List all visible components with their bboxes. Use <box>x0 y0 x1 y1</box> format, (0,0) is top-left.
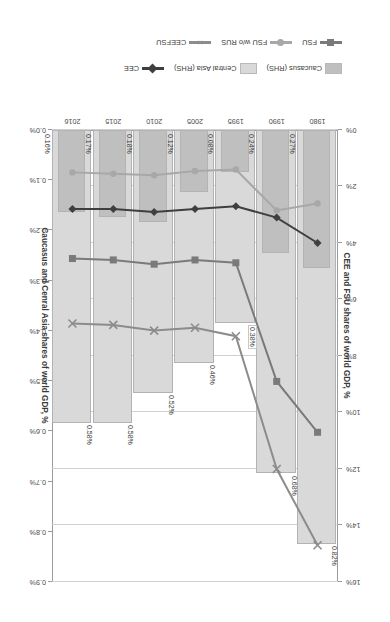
y-tick-left-16%: 16% <box>346 578 378 587</box>
data-label-central-asia-2005: 0.46% <box>209 365 216 385</box>
legend-label: Caucasus (RHS) <box>267 65 322 74</box>
data-label-caucasus-1995: 0.08% <box>207 134 214 154</box>
y-tickmark-right <box>48 581 52 582</box>
lines-layer <box>52 130 338 582</box>
data-label-central-asia-1990: 0.68% <box>291 476 298 496</box>
legend-label: FSU <box>302 39 317 48</box>
x-tick-2016: 2016 <box>52 117 92 126</box>
legend-row-1: Caucasus (RHS)Central Asia (RHS)CEE <box>46 56 342 82</box>
chart-root: CEE and FSU shares of world GDP, % Cauca… <box>0 0 390 622</box>
marker-fsu-2005 <box>192 256 199 263</box>
legend-marker-cross-icon: ✕ <box>196 40 203 47</box>
legend-marker-square-icon <box>327 40 334 47</box>
legend-swatch-line-icon <box>142 68 164 71</box>
y-tick-right-0.5%: 0.5% <box>14 377 46 386</box>
y-tickmark-left <box>338 242 342 243</box>
x-tick-2015: 2015 <box>93 117 133 126</box>
x-tick-1990: 1990 <box>257 117 297 126</box>
y-tickmark-left <box>338 299 342 300</box>
data-label-caucasus-2010: 0.18% <box>126 134 133 154</box>
legend-item-central-asia-rhs-[interactable]: Central Asia (RHS) <box>174 64 256 75</box>
y-tickmark-right <box>48 179 52 180</box>
line-ceefsu <box>72 324 317 546</box>
y-tickmark-right <box>48 229 52 230</box>
legend-swatch-line-icon <box>270 42 292 45</box>
legend-item-caucasus-rhs-[interactable]: Caucasus (RHS) <box>267 64 342 75</box>
line-fsu <box>72 259 317 433</box>
marker-fsu-w-o-rus-2015 <box>110 171 116 177</box>
marker-fsu-2016 <box>69 255 76 262</box>
marker-fsu-1995 <box>232 259 239 266</box>
data-label-central-asia-2015: 0.58% <box>127 425 134 445</box>
y-tick-left-6%: 6% <box>346 296 378 305</box>
legend-item-fsu[interactable]: FSU <box>302 39 342 48</box>
y-tick-right-0.7%: 0.7% <box>14 478 46 487</box>
y-tick-left-14%: 14% <box>346 522 378 531</box>
marker-fsu-w-o-rus-2005 <box>192 168 198 174</box>
data-label-central-asia-1995: 0.38% <box>248 325 257 349</box>
y-tick-left-0%: 0% <box>346 126 378 135</box>
marker-cee-2005 <box>191 205 199 213</box>
marker-fsu-w-o-rus-1990 <box>274 207 280 213</box>
legend-label: CEE <box>124 65 139 74</box>
y-tick-right-0.3%: 0.3% <box>14 277 46 286</box>
marker-fsu-w-o-rus-2016 <box>69 169 75 175</box>
legend-marker-diamond-icon <box>148 64 158 74</box>
data-label-central-asia-1980: 0.82% <box>331 546 338 566</box>
chart-legend: Caucasus (RHS)Central Asia (RHS)CEE FSUF… <box>46 24 342 82</box>
legend-label: FSU w/o RUS <box>221 39 267 48</box>
y-tick-left-10%: 10% <box>346 409 378 418</box>
y-tickmark-right <box>48 380 52 381</box>
y-tickmark-right <box>48 531 52 532</box>
x-tick-1995: 1995 <box>216 117 256 126</box>
data-label-central-asia-2016: 0.58% <box>86 425 93 445</box>
legend-label: Central Asia (RHS) <box>174 65 236 74</box>
legend-row-2: FSUFSU w/o RUS✕CEEFSU <box>46 30 342 56</box>
legend-swatch-line-icon: ✕ <box>189 42 211 45</box>
x-tick-2010: 2010 <box>134 117 174 126</box>
marker-fsu-1980 <box>314 429 321 436</box>
y-tick-right-0.1%: 0.1% <box>14 176 46 185</box>
y-tick-left-2%: 2% <box>346 183 378 192</box>
marker-fsu-2015 <box>110 256 117 263</box>
legend-item-fsu-w-o-rus[interactable]: FSU w/o RUS <box>221 39 292 48</box>
y-tickmark-right <box>48 280 52 281</box>
y-tick-left-8%: 8% <box>346 352 378 361</box>
legend-swatch-bar-icon <box>325 64 342 75</box>
marker-fsu-1990 <box>273 378 280 385</box>
marker-cee-2016 <box>68 205 76 213</box>
y-tickmark-right <box>48 430 52 431</box>
y-tick-left-12%: 12% <box>346 465 378 474</box>
plot-area: 0.82%0.68%0.38%0.46%0.52%0.58%0.58%0.27%… <box>52 130 338 582</box>
y-tickmark-right <box>48 481 52 482</box>
y-tickmark-left <box>338 412 342 413</box>
legend-item-cee[interactable]: CEE <box>124 65 164 74</box>
y-tickmark-left <box>338 468 342 469</box>
line-fsu-w-o-rus <box>72 170 317 211</box>
y-tick-right-0.9%: 0.9% <box>14 578 46 587</box>
marker-fsu-2010 <box>151 261 158 268</box>
y-tick-left-4%: 4% <box>346 239 378 248</box>
y-tickmark-right <box>48 330 52 331</box>
y-tickmark-left <box>338 129 342 130</box>
legend-label: CEEFSU <box>156 39 186 48</box>
marker-cee-1995 <box>232 202 240 210</box>
rotated-chart-wrapper: CEE and FSU shares of world GDP, % Cauca… <box>0 0 390 622</box>
y-tick-right-0.4%: 0.4% <box>14 327 46 336</box>
legend-swatch-line-icon <box>320 42 342 45</box>
y-tickmark-left <box>338 581 342 582</box>
marker-cee-2010 <box>150 208 158 216</box>
data-label-caucasus-1990: 0.24% <box>248 134 255 154</box>
y-tick-right-0.0%: 0.0% <box>14 126 46 135</box>
marker-cee-2015 <box>109 205 117 213</box>
data-label-caucasus-2005: 0.12% <box>167 134 174 154</box>
y-tickmark-left <box>338 355 342 356</box>
marker-fsu-w-o-rus-1995 <box>233 166 239 172</box>
y-tick-right-0.2%: 0.2% <box>14 226 46 235</box>
data-label-caucasus-2016: 0.16% <box>44 134 51 154</box>
legend-item-ceefsu[interactable]: ✕CEEFSU <box>156 39 211 48</box>
marker-fsu-w-o-rus-1980 <box>314 200 320 206</box>
legend-marker-circle-icon <box>277 40 284 47</box>
marker-fsu-w-o-rus-2010 <box>151 172 157 178</box>
y-tickmark-left <box>338 525 342 526</box>
